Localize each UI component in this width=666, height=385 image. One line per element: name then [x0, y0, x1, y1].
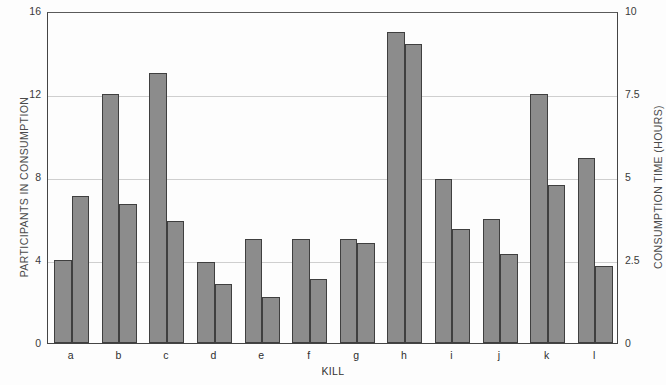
bar-group — [96, 13, 144, 343]
bar — [405, 44, 423, 343]
bar — [578, 158, 596, 343]
bar-group — [334, 13, 382, 343]
bar — [215, 284, 233, 343]
x-tick-label-h: h — [380, 349, 428, 361]
bar-group — [143, 13, 191, 343]
bar-group — [524, 13, 572, 343]
x-tick-label-e: e — [237, 349, 285, 361]
bar — [149, 73, 167, 343]
bar-group — [48, 13, 96, 343]
x-tick-label-f: f — [285, 349, 333, 361]
bar — [197, 262, 215, 343]
y-tick-right-7.5: 7.5 — [625, 88, 659, 100]
y-tick-left-0: 0 — [7, 337, 41, 349]
bar — [340, 239, 358, 343]
y-tick-left-8: 8 — [7, 171, 41, 183]
bar — [595, 266, 613, 343]
bar — [435, 179, 453, 343]
y-tick-right-2.5: 2.5 — [625, 254, 659, 266]
bar — [310, 279, 328, 343]
bar-group — [191, 13, 239, 343]
bar — [292, 239, 310, 343]
x-tick-label-b: b — [95, 349, 143, 361]
x-tick-label-l: l — [570, 349, 618, 361]
bar — [54, 260, 72, 343]
bar — [245, 239, 263, 343]
x-tick-label-j: j — [475, 349, 523, 361]
bar — [483, 219, 501, 344]
plot-area — [47, 12, 618, 344]
y-tick-right-5: 5 — [625, 171, 659, 183]
bar — [357, 243, 375, 343]
y-tick-left-4: 4 — [7, 254, 41, 266]
x-axis-title: KILL — [0, 365, 666, 377]
bar-chart: PARTICIPANTS IN CONSUMPTION CONSUMPTION … — [0, 0, 666, 385]
x-tick-label-a: a — [47, 349, 95, 361]
bar — [102, 94, 120, 343]
bar-group — [571, 13, 619, 343]
bar-groups — [48, 13, 617, 343]
bar — [548, 185, 566, 343]
bar — [500, 254, 518, 343]
x-tick-label-c: c — [142, 349, 190, 361]
y-tick-right-0: 0 — [625, 337, 659, 349]
bar — [119, 204, 137, 343]
y-tick-left-12: 12 — [7, 88, 41, 100]
bar — [452, 229, 470, 343]
bar — [530, 94, 548, 343]
bar — [167, 221, 185, 343]
y-tick-right-10: 10 — [625, 5, 659, 17]
bar — [72, 196, 90, 343]
bar-group — [238, 13, 286, 343]
bar — [262, 297, 280, 343]
x-tick-label-d: d — [190, 349, 238, 361]
bar — [387, 32, 405, 343]
bar-group — [476, 13, 524, 343]
bar-group — [381, 13, 429, 343]
x-tick-label-i: i — [428, 349, 476, 361]
x-tick-label-k: k — [523, 349, 571, 361]
x-tick-label-g: g — [333, 349, 381, 361]
y-tick-left-16: 16 — [7, 5, 41, 17]
bar-group — [429, 13, 477, 343]
bar-group — [286, 13, 334, 343]
